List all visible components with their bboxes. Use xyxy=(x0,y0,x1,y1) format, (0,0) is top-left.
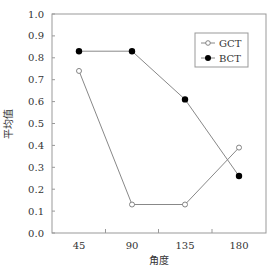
y-axis: 0.00.10.20.30.40.50.60.70.80.91.0 xyxy=(28,9,55,239)
y-tick-label: 0.2 xyxy=(28,184,44,195)
x-tick-label: 90 xyxy=(126,240,139,251)
data-point xyxy=(237,145,242,150)
data-point xyxy=(182,96,188,102)
x-tick-label: 180 xyxy=(229,240,248,251)
legend-label-gct: GCT xyxy=(219,38,242,49)
y-tick-label: 0.9 xyxy=(28,30,44,41)
open-circle-marker-icon xyxy=(206,41,211,46)
line-chart: 0.00.10.20.30.40.50.60.70.80.91.0 459013… xyxy=(0,0,276,273)
series-gct xyxy=(77,68,242,207)
data-point xyxy=(130,202,135,207)
x-tick-label: 135 xyxy=(175,240,194,251)
data-point xyxy=(76,48,82,54)
data-point xyxy=(129,48,135,54)
x-axis-title: 角度 xyxy=(149,254,169,266)
y-tick-label: 0.7 xyxy=(28,74,44,85)
filled-circle-marker-icon xyxy=(205,55,211,61)
data-point xyxy=(183,202,188,207)
legend-label-bct: BCT xyxy=(219,53,241,64)
y-tick-label: 0.6 xyxy=(28,96,44,107)
y-tick-label: 0.1 xyxy=(28,206,44,217)
y-axis-title: 平均值 xyxy=(2,109,14,139)
y-tick-label: 1.0 xyxy=(28,9,44,20)
y-tick-label: 0.3 xyxy=(28,162,44,173)
y-tick-label: 0.0 xyxy=(28,228,44,239)
x-tick-label: 45 xyxy=(73,240,86,251)
y-tick-label: 0.4 xyxy=(28,140,44,151)
y-tick-label: 0.5 xyxy=(28,118,44,129)
y-tick-label: 0.8 xyxy=(28,52,44,63)
x-axis: 4590135180 xyxy=(73,229,249,251)
series-layer xyxy=(76,48,242,207)
series-bct xyxy=(76,48,242,179)
data-point xyxy=(236,173,242,179)
legend: GCT BCT xyxy=(195,33,248,67)
data-point xyxy=(77,68,82,73)
